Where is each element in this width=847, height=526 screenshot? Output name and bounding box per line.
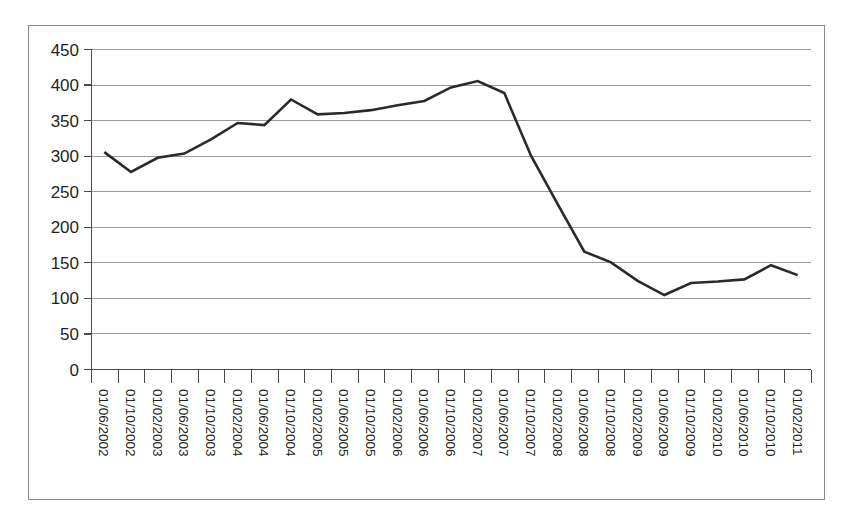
x-axis-tick-label: 01/06/2002 (96, 389, 111, 457)
x-axis-tick-label: 01/02/2006 (390, 389, 405, 457)
y-axis-tick-label: 0 (70, 361, 79, 380)
x-axis-tick-label: 01/02/2011 (790, 389, 805, 456)
x-axis-tick-label: 01/02/2007 (470, 389, 485, 457)
x-axis-tick-label: 01/10/2008 (603, 389, 618, 457)
x-axis-tick-label: 01/06/2004 (256, 389, 271, 457)
x-axis-tick-label: 01/10/2004 (283, 389, 298, 457)
x-axis-tick-label: 01/02/2003 (150, 389, 165, 457)
x-axis-tick-label: 01/06/2003 (176, 389, 191, 457)
x-axis-tickmarks-group (92, 370, 812, 383)
x-axis-tick-label: 01/06/2006 (416, 389, 431, 457)
y-axis-tick-label: 400 (51, 76, 79, 95)
y-axis-tick-label: 350 (51, 112, 79, 131)
y-axis-tick-label: 250 (51, 183, 79, 202)
x-axis-tick-labels-group: 01/06/200201/10/200201/02/200301/06/2003… (96, 389, 804, 457)
y-axis-tick-labels-group: 050100150200250300350400450 (51, 41, 79, 380)
x-axis-tick-label: 01/10/2006 (443, 389, 458, 457)
x-axis-tick-label: 01/10/2002 (123, 389, 138, 457)
gridlines-group (91, 50, 811, 334)
x-axis-tick-label: 01/10/2010 (763, 389, 778, 457)
y-axis-tick-label: 450 (51, 41, 79, 60)
x-axis-tick-label: 01/06/2008 (576, 389, 591, 457)
y-axis-tick-label: 50 (60, 325, 79, 344)
x-axis-tick-label: 01/10/2005 (363, 389, 378, 457)
x-axis-tick-label: 01/06/2007 (496, 389, 511, 457)
x-axis-tick-label: 01/06/2009 (656, 389, 671, 457)
x-axis-tick-label: 01/10/2007 (523, 389, 538, 457)
x-axis-tick-label: 01/02/2008 (550, 389, 565, 457)
x-axis-tick-label: 01/02/2005 (310, 389, 325, 457)
y-axis-tick-label: 200 (51, 218, 79, 237)
y-axis-tickmarks-group (84, 50, 91, 370)
chart-plot-svg: 050100150200250300350400450 01/06/200201… (29, 26, 824, 499)
chart-frame-border: 050100150200250300350400450 01/06/200201… (28, 25, 825, 500)
y-axis-tick-label: 100 (51, 289, 79, 308)
y-axis-tick-label: 150 (51, 254, 79, 273)
x-axis-tick-label: 01/02/2004 (230, 389, 245, 457)
x-axis-tick-label: 01/06/2005 (336, 389, 351, 457)
y-axis-tick-label: 300 (51, 147, 79, 166)
x-axis-tick-label: 01/06/2010 (736, 389, 751, 457)
line-chart-figure: 050100150200250300350400450 01/06/200201… (0, 0, 847, 526)
x-axis-tick-label: 01/10/2009 (683, 389, 698, 457)
x-axis-tick-label: 01/10/2003 (203, 389, 218, 457)
x-axis-tick-label: 01/02/2010 (710, 389, 725, 457)
x-axis-tick-label: 01/02/2009 (630, 389, 645, 457)
